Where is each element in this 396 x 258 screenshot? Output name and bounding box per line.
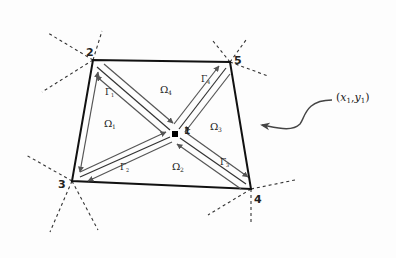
dash-line	[42, 60, 93, 92]
interior-node-marker	[172, 131, 178, 137]
subdomain-omega2: Ω 2	[172, 161, 184, 173]
gamma3-arrow-in	[185, 132, 248, 177]
boundary-gamma4: Γ 4	[201, 74, 210, 85]
element-boundary	[72, 60, 251, 189]
boundary-gamma2: Γ 2	[120, 162, 129, 173]
subdomain-omega1: Ω 1	[104, 118, 116, 130]
node-label-1: 1	[184, 126, 190, 136]
svg-text:3: 3	[226, 162, 229, 168]
gamma3-line-a	[180, 138, 246, 184]
dash-line	[251, 180, 295, 189]
svg-text:2: 2	[126, 167, 129, 173]
svg-text:1: 1	[112, 123, 116, 130]
svg-text:1: 1	[111, 92, 114, 98]
coordinate-annotation: (x1,y1)	[336, 91, 369, 105]
gamma2-arrow-out	[88, 142, 172, 181]
node-label-2: 2	[86, 46, 94, 59]
svg-text:3: 3	[218, 126, 222, 133]
svg-text:(x1,y1): (x1,y1)	[336, 91, 369, 105]
dash-line	[208, 189, 251, 215]
boundary-gamma1: Γ 1	[105, 87, 114, 98]
svg-text:4: 4	[207, 79, 210, 85]
gamma3-arrow-out	[177, 144, 241, 189]
gamma4-arrow-in	[174, 66, 219, 124]
dash-line	[72, 181, 98, 230]
subdomain-omega3: Ω 3	[210, 121, 222, 133]
node-label-5: 5	[234, 54, 242, 67]
subdomain-omega4: Ω 4	[160, 84, 172, 96]
boundary-gamma3: Γ 3	[220, 157, 229, 168]
dash-line	[93, 31, 102, 60]
node-label-4: 4	[254, 193, 262, 206]
svg-text:2: 2	[180, 166, 184, 173]
node-label-3: 3	[58, 178, 66, 191]
dash-line	[213, 41, 230, 62]
svg-text:4: 4	[168, 89, 172, 96]
element-diagram: 2 5 3 4 1 Ω 1 Ω 4 Ω 3 Ω 2 Γ 1 Γ 4 Γ 3 Γ …	[0, 0, 396, 258]
annotation-arrow	[262, 100, 332, 129]
